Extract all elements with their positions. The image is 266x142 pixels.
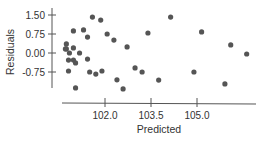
data-point: [67, 50, 72, 55]
data-point: [63, 46, 68, 51]
data-point: [145, 30, 150, 35]
data-points: [63, 14, 249, 91]
x-axis: [62, 103, 256, 104]
data-point: [124, 44, 129, 49]
data-point: [191, 69, 196, 74]
data-point: [73, 60, 78, 65]
data-point: [114, 77, 119, 82]
y-axis-title: Residuals: [4, 29, 16, 75]
y-tick-label: 0.00: [26, 48, 46, 59]
x-tick-label: 102.0: [92, 110, 117, 121]
data-point: [99, 68, 104, 73]
data-point: [90, 14, 95, 19]
data-point: [93, 71, 98, 76]
x-axis-title: Predicted: [137, 123, 182, 135]
data-point: [66, 57, 71, 62]
y-axis-ticks: 1.500.750.00-0.75: [22, 10, 56, 78]
y-tick-label: 0.75: [26, 29, 46, 40]
data-point: [132, 65, 137, 70]
data-point: [228, 42, 233, 47]
y-tick-label: 1.50: [26, 10, 46, 21]
data-point: [81, 27, 86, 32]
x-tick-label: 105.0: [184, 110, 209, 121]
data-point: [77, 50, 82, 55]
data-point: [87, 69, 92, 74]
x-tick-label: 103.5: [138, 110, 163, 121]
data-point: [85, 56, 90, 61]
data-point: [66, 68, 71, 73]
residual-scatter-plot: 1.500.750.00-0.75 Residuals 102.0103.510…: [0, 0, 266, 142]
data-point: [85, 34, 90, 39]
data-point: [71, 45, 76, 50]
data-point: [222, 81, 227, 86]
x-axis-ticks: 102.0103.5105.0: [92, 98, 209, 121]
data-point: [244, 51, 249, 56]
data-point: [98, 17, 103, 22]
data-point: [73, 85, 78, 90]
data-point: [199, 29, 204, 34]
data-point: [64, 41, 69, 46]
data-point: [71, 28, 76, 33]
data-point: [120, 86, 125, 91]
data-point: [140, 69, 145, 74]
data-point: [156, 78, 161, 83]
y-tick-label: -0.75: [22, 67, 45, 78]
data-point: [111, 37, 116, 42]
data-point: [168, 14, 173, 19]
data-point: [105, 31, 110, 36]
